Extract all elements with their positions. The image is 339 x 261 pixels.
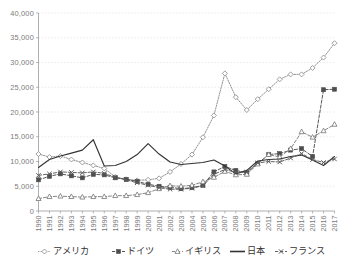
x-tick-label: 2005 bbox=[199, 216, 208, 232]
x-tick-label: 2015 bbox=[308, 216, 317, 232]
y-tick-labels: 05,00010,00015,00020,00025,00030,00035,0… bbox=[10, 9, 34, 216]
x-tick-label: 1999 bbox=[133, 216, 142, 232]
x-tick-label: 2003 bbox=[177, 216, 186, 232]
series-4 bbox=[36, 151, 336, 191]
y-tick-label: 40,000 bbox=[10, 9, 34, 18]
data-point-marker bbox=[200, 135, 205, 140]
legend-item-2[interactable]: イギリス bbox=[172, 246, 221, 256]
x-tick-label: 2002 bbox=[166, 216, 175, 232]
x-tick-label: 2007 bbox=[220, 216, 229, 232]
y-tick-label: 35,000 bbox=[10, 33, 34, 42]
x-tick-label: 1992 bbox=[56, 216, 65, 232]
legend-label: イギリス bbox=[185, 246, 221, 256]
data-point-marker bbox=[146, 177, 151, 182]
x-tick-label: 2004 bbox=[188, 216, 197, 232]
data-series-group bbox=[36, 41, 337, 201]
legend-label: 日本 bbox=[247, 245, 265, 256]
data-point-marker bbox=[300, 147, 304, 151]
x-tick-label: 2000 bbox=[144, 216, 153, 232]
data-point-marker bbox=[299, 129, 304, 134]
data-point-marker bbox=[37, 178, 41, 182]
y-tick-label: 5,000 bbox=[15, 182, 35, 191]
legend-item-4[interactable]: フランス bbox=[275, 246, 325, 256]
legend-item-0[interactable]: アメリカ bbox=[38, 246, 89, 256]
data-point-marker bbox=[42, 249, 47, 254]
legend-item-1[interactable]: ドイツ bbox=[112, 246, 154, 256]
x-tick-labels: 1990199119921993199419951996199719981999… bbox=[34, 216, 339, 232]
x-tick-label: 2006 bbox=[210, 216, 219, 232]
legend-label: ドイツ bbox=[127, 246, 154, 256]
y-tick-label: 15,000 bbox=[10, 132, 34, 141]
x-tick-label: 2014 bbox=[297, 216, 306, 232]
chart-canvas: 05,00010,00015,00020,00025,00030,00035,0… bbox=[0, 0, 339, 261]
x-tick-label: 2009 bbox=[242, 216, 251, 232]
x-tick-label: 2011 bbox=[264, 216, 273, 231]
chart-legend: アメリカドイツイギリス日本フランス bbox=[38, 245, 325, 256]
x-tick-label: 2012 bbox=[275, 216, 284, 232]
y-tick-label: 20,000 bbox=[10, 108, 34, 117]
x-tick-label: 1998 bbox=[122, 216, 131, 232]
series-1 bbox=[37, 87, 337, 190]
data-point-marker bbox=[58, 193, 63, 198]
x-tick-label: 1995 bbox=[89, 216, 98, 232]
x-tick-label: 1990 bbox=[34, 216, 43, 232]
x-axis bbox=[39, 211, 335, 214]
legend-item-3[interactable]: 日本 bbox=[230, 245, 265, 256]
x-tick-label: 2010 bbox=[253, 216, 262, 232]
data-point-marker bbox=[288, 72, 293, 77]
data-point-marker bbox=[211, 175, 216, 180]
data-point-marker bbox=[36, 152, 41, 157]
data-point-marker bbox=[157, 176, 162, 181]
x-tick-label: 2001 bbox=[155, 216, 164, 232]
y-tick-label: 25,000 bbox=[10, 83, 34, 92]
data-point-marker bbox=[117, 250, 121, 254]
data-point-marker bbox=[333, 87, 337, 91]
data-point-marker bbox=[80, 160, 85, 165]
x-tick-label: 1991 bbox=[45, 216, 54, 232]
x-tick-label: 1993 bbox=[67, 216, 76, 232]
data-point-marker bbox=[222, 71, 227, 76]
data-point-marker bbox=[299, 72, 304, 77]
x-tick-label: 1996 bbox=[100, 216, 109, 232]
data-point-marker bbox=[211, 113, 216, 118]
y-tick-label: 0 bbox=[30, 207, 34, 216]
data-point-marker bbox=[69, 157, 74, 162]
data-point-marker bbox=[332, 122, 337, 127]
x-tick-label: 2016 bbox=[319, 216, 328, 232]
y-tick-label: 30,000 bbox=[10, 58, 34, 67]
data-point-marker bbox=[80, 176, 84, 180]
data-point-marker bbox=[321, 128, 326, 133]
x-tick-label: 1997 bbox=[111, 216, 120, 232]
x-tick-label: 2017 bbox=[330, 216, 339, 232]
x-tick-label: 2013 bbox=[286, 216, 295, 232]
data-point-marker bbox=[91, 163, 96, 168]
data-point-marker bbox=[322, 88, 326, 92]
data-point-marker bbox=[113, 193, 118, 198]
x-tick-label: 1994 bbox=[78, 216, 87, 232]
x-tick-label: 2008 bbox=[231, 216, 240, 232]
legend-label: アメリカ bbox=[53, 246, 89, 256]
y-tick-label: 10,000 bbox=[10, 157, 34, 166]
legend-label: フランス bbox=[289, 246, 325, 256]
line-chart: 05,00010,00015,00020,00025,00030,00035,0… bbox=[0, 0, 339, 261]
